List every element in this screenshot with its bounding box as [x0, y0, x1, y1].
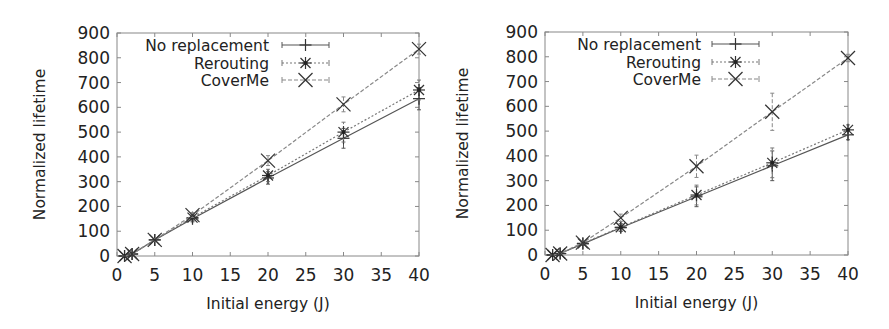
y-tick-label: 500 — [78, 122, 110, 142]
legend-label: No replacement — [145, 37, 269, 55]
x-tick-label: 20 — [686, 264, 708, 284]
x-tick-label: 10 — [182, 265, 204, 285]
y-tick-label: 0 — [527, 245, 538, 265]
x-tick-label: 10 — [610, 264, 632, 284]
y-tick-label: 900 — [506, 22, 538, 42]
x-tick-label: 0 — [540, 264, 551, 284]
y-tick-label: 700 — [78, 73, 110, 93]
legend-label: Rerouting — [626, 54, 701, 72]
y-tick-label: 700 — [506, 72, 538, 92]
legend-label: CoverMe — [633, 71, 701, 89]
y-tick-label: 100 — [78, 221, 110, 241]
x-tick-label: 30 — [761, 264, 783, 284]
x-tick-label: 20 — [257, 265, 279, 285]
legend-label: Rerouting — [194, 55, 269, 73]
y-tick-label: 200 — [506, 195, 538, 215]
x-tick-label: 25 — [724, 264, 746, 284]
y-tick-label: 900 — [78, 23, 110, 43]
chart-left: 0510152025303540010020030040050060070080… — [31, 23, 430, 313]
x-tick-label: 25 — [295, 265, 317, 285]
y-tick-label: 300 — [78, 172, 110, 192]
x-tick-label: 35 — [799, 264, 821, 284]
legend-label: CoverMe — [201, 72, 269, 90]
x-tick-label: 5 — [149, 265, 160, 285]
y-axis-label: Normalized lifetime — [31, 69, 49, 220]
legend: No replacementReroutingCoverMe — [577, 36, 759, 89]
x-axis-label: Initial energy (J) — [206, 295, 329, 313]
x-tick-label: 5 — [577, 264, 588, 284]
x-tick-label: 30 — [333, 265, 355, 285]
y-axis-label: Normalized lifetime — [454, 68, 472, 219]
y-tick-label: 400 — [506, 146, 538, 166]
x-tick-label: 40 — [408, 265, 430, 285]
y-tick-label: 600 — [78, 97, 110, 117]
y-tick-label: 0 — [99, 246, 110, 266]
y-tick-label: 100 — [506, 220, 538, 240]
legend-label: No replacement — [577, 36, 701, 54]
y-tick-label: 200 — [78, 196, 110, 216]
series-rerouting — [547, 124, 854, 261]
figure: 0510152025303540010020030040050060070080… — [0, 0, 889, 329]
chart-right: 0510152025303540010020030040050060070080… — [454, 22, 859, 312]
x-axis-label: Initial energy (J) — [635, 294, 758, 312]
x-tick-label: 0 — [112, 265, 123, 285]
series-rerouting — [119, 80, 425, 262]
series-coverme — [118, 42, 426, 263]
series-no-replacement — [119, 88, 425, 262]
x-tick-label: 40 — [837, 264, 859, 284]
x-tick-label: 35 — [370, 265, 392, 285]
chart-left: 0510152025303540010020030040050060070080… — [0, 0, 889, 329]
y-tick-label: 800 — [78, 48, 110, 68]
y-tick-label: 800 — [506, 47, 538, 67]
y-tick-label: 500 — [506, 121, 538, 141]
x-tick-label: 15 — [648, 264, 670, 284]
x-tick-label: 15 — [219, 265, 241, 285]
y-tick-label: 400 — [78, 147, 110, 167]
y-tick-label: 300 — [506, 171, 538, 191]
legend: No replacementReroutingCoverMe — [145, 37, 329, 90]
y-tick-label: 600 — [506, 96, 538, 116]
